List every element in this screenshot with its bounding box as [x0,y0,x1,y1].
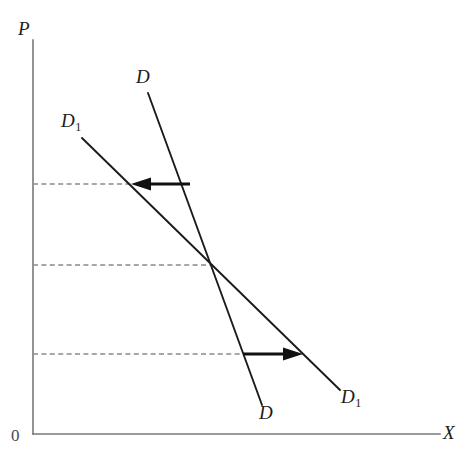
upper-shift-arrow [131,178,190,191]
demand-curve-d1 [82,138,340,390]
demand-curve-d1-top-label-letter: D [61,110,75,131]
lower-shift-arrow-head [283,348,303,361]
figure-canvas [0,0,475,467]
demand-curve-d1-top-label-subscript: 1 [75,120,81,134]
demand-curve-figure: P X 0 D D D1 D1 [0,0,475,467]
demand-curve-d-bottom-label: D [259,403,273,422]
demand-curve-d1-top-label: D1 [61,111,81,130]
y-axis-label: P [18,19,30,38]
demand-curve-d [148,93,262,405]
origin-label: 0 [11,427,20,444]
x-axis-label: X [443,423,455,442]
lower-shift-arrow [243,348,303,361]
demand-curve-d1-bottom-label-subscript: 1 [355,396,361,410]
demand-curve-d-top-label: D [136,67,150,86]
demand-curve-d1-bottom-label: D1 [341,387,361,406]
demand-curve-d1-bottom-label-letter: D [341,386,355,407]
